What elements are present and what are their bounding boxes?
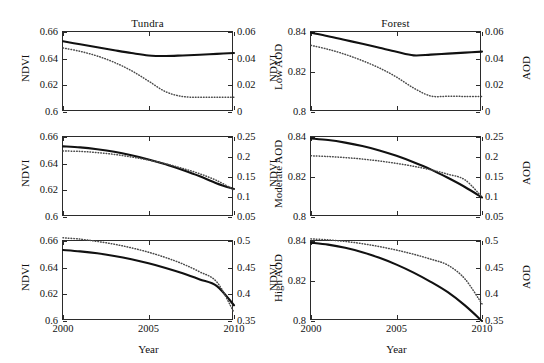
y-axis-tick-label-left: 0.8 xyxy=(293,107,306,118)
y-axis-tick-label-left: 0.66 xyxy=(40,27,58,38)
y-axis-tick-label-right: 0.25 xyxy=(237,132,255,143)
x-axis-tick-label: 2010 xyxy=(224,324,245,335)
y-axis-tick-label-right: 0.04 xyxy=(237,53,255,64)
y-axis-title-left: NDVI xyxy=(19,264,31,292)
y-axis-tick-left xyxy=(311,321,315,322)
y-axis-tick-label-left: 0.6 xyxy=(45,212,58,223)
y-axis-tick-label-left: 0.64 xyxy=(40,53,58,64)
aod-series-line xyxy=(311,156,482,197)
x-axis-tick-top xyxy=(234,137,235,141)
y-axis-tick-label-left: 0.62 xyxy=(40,80,58,91)
y-axis-tick-label-right: 0.25 xyxy=(485,132,503,143)
panel-title: Forest xyxy=(311,17,480,29)
y-axis-title-right: AOD xyxy=(520,161,532,185)
y-axis-tick-label-left: 0.64 xyxy=(40,262,58,273)
y-axis-tick-label-right: 0.4 xyxy=(485,289,498,300)
y-axis-tick-label-left: 0.62 xyxy=(40,289,58,300)
y-axis-tick-label-right: 0.05 xyxy=(485,212,503,223)
plot-area: 0.60.620.640.660.350.40.450.520002005201… xyxy=(62,240,233,320)
x-axis-tick xyxy=(482,211,483,215)
x-axis-tick xyxy=(234,106,235,110)
y-axis-tick-label-right: 0.45 xyxy=(237,262,255,273)
y-axis-title-right: AOD xyxy=(520,56,532,80)
y-axis-tick-label-left: 0.64 xyxy=(40,158,58,169)
panel-title: Tundra xyxy=(63,17,232,29)
y-axis-tick-label-left: 0.6 xyxy=(45,107,58,118)
aod-series-line xyxy=(63,238,234,313)
series-layer xyxy=(311,137,482,217)
y-axis-tick-right xyxy=(228,321,232,322)
y-axis-tick-label-right: 0.5 xyxy=(485,236,498,247)
y-axis-title-left: NDVI xyxy=(267,160,279,188)
x-axis-title: Year xyxy=(386,343,406,355)
y-axis-tick-label-right: 0.02 xyxy=(485,80,503,91)
y-axis-title-left: NDVI xyxy=(267,264,279,292)
y-axis-tick-label-right: 0.06 xyxy=(485,27,503,38)
y-axis-tick-label-right: 0.5 xyxy=(237,236,250,247)
plot-area: 0.80.820.840.350.40.450.5200020052010NDV… xyxy=(310,240,481,320)
y-axis-tick-label-left: 0.82 xyxy=(288,67,306,78)
y-axis-tick-label-right: 0.1 xyxy=(485,192,498,203)
y-axis-tick-left xyxy=(311,217,315,218)
series-layer xyxy=(311,32,482,112)
x-axis-tick-top xyxy=(482,137,483,141)
ndvi-series-line xyxy=(311,243,482,321)
x-axis-tick-label: 2000 xyxy=(53,324,74,335)
y-axis-tick-label-left: 0.84 xyxy=(288,132,306,143)
y-axis-tick-label-right: 0 xyxy=(237,107,242,118)
y-axis-tick-label-right: 0.45 xyxy=(485,262,503,273)
y-axis-tick-label-right: 0.02 xyxy=(237,80,255,91)
x-axis-tick-label: 2000 xyxy=(301,324,322,335)
figure-canvas: Tundra0.60.620.640.6600.020.040.06NDVILo… xyxy=(0,0,544,363)
x-axis-tick-top xyxy=(234,32,235,36)
panel-forest-row2: 0.80.820.840.350.40.450.5200020052010NDV… xyxy=(310,240,481,320)
plot-area: 0.80.820.840.050.10.150.20.25NDVIAOD xyxy=(310,136,481,216)
aod-series-line xyxy=(63,151,234,190)
ndvi-series-line xyxy=(63,250,234,305)
y-axis-tick-label-right: 0.2 xyxy=(485,152,498,163)
x-axis-tick xyxy=(234,315,235,319)
y-axis-tick-label-right: 0.05 xyxy=(237,212,255,223)
y-axis-tick-left xyxy=(63,217,67,218)
plot-area: Forest0.80.820.8400.020.040.06NDVIAOD xyxy=(310,31,481,111)
y-axis-tick-label-left: 0.82 xyxy=(288,276,306,287)
y-axis-tick-right xyxy=(476,217,480,218)
y-axis-tick-label-left: 0.84 xyxy=(288,27,306,38)
x-axis-tick xyxy=(234,211,235,215)
y-axis-tick-label-left: 0.82 xyxy=(288,172,306,183)
series-layer xyxy=(63,137,234,217)
y-axis-tick-left xyxy=(63,321,67,322)
y-axis-tick-label-left: 0.8 xyxy=(293,212,306,223)
y-axis-tick-label-left: 0.66 xyxy=(40,236,58,247)
y-axis-title-left: NDVI xyxy=(19,160,31,188)
y-axis-tick-right xyxy=(476,321,480,322)
y-axis-tick-left xyxy=(63,112,67,113)
x-axis-tick-top xyxy=(482,241,483,245)
y-axis-tick-label-right: 0 xyxy=(485,107,490,118)
panel-tundra-row0: Tundra0.60.620.640.6600.020.040.06NDVILo… xyxy=(62,31,233,111)
x-axis-title: Year xyxy=(138,343,158,355)
plot-area: 0.60.620.640.660.050.10.150.20.25NDVIMod… xyxy=(62,136,233,216)
y-axis-tick-left xyxy=(311,112,315,113)
x-axis-tick-top xyxy=(234,241,235,245)
x-axis-tick-top xyxy=(482,32,483,36)
y-axis-tick-label-left: 0.84 xyxy=(288,236,306,247)
y-axis-tick-label-left: 0.66 xyxy=(40,132,58,143)
y-axis-tick-label-right: 0.04 xyxy=(485,53,503,64)
ndvi-series-line xyxy=(63,146,234,189)
series-layer xyxy=(63,241,234,321)
y-axis-tick-right xyxy=(228,112,232,113)
y-axis-tick-label-right: 0.4 xyxy=(237,289,250,300)
y-axis-title-right: AOD xyxy=(520,265,532,289)
x-axis-tick xyxy=(482,315,483,319)
x-axis-tick-label: 2005 xyxy=(138,324,159,335)
y-axis-title-left: NDVI xyxy=(19,55,31,83)
series-layer xyxy=(311,241,482,321)
panel-tundra-row1: 0.60.620.640.660.050.10.150.20.25NDVIMod… xyxy=(62,136,233,216)
panel-forest-row1: 0.80.820.840.050.10.150.20.25NDVIAOD xyxy=(310,136,481,216)
y-axis-tick-label-right: 0.15 xyxy=(237,172,255,183)
y-axis-tick-right xyxy=(228,217,232,218)
y-axis-title-left: NDVI xyxy=(267,55,279,83)
y-axis-tick-label-left: 0.62 xyxy=(40,185,58,196)
y-axis-tick-label-right: 0.15 xyxy=(485,172,503,183)
